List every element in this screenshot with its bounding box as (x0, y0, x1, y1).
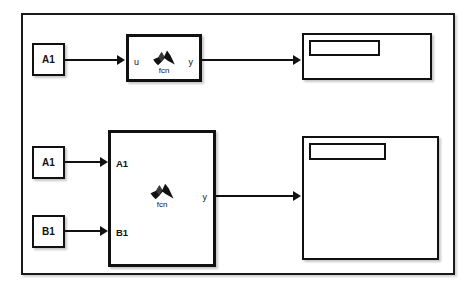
matlab-function-block-bottom[interactable]: A1 B1 y fcn (108, 130, 216, 267)
signal-line-fcn-to-display-bottom[interactable] (216, 195, 294, 197)
signal-line-a1-to-fcn-top[interactable] (65, 59, 118, 61)
signal-arrow-fcn-bottom-input-a1 (100, 157, 108, 167)
display-block-top[interactable] (302, 33, 432, 80)
const-a1-top-label: A1 (42, 55, 55, 65)
signal-line-fcn-to-display-top[interactable] (202, 59, 294, 61)
signal-line-b1-to-fcn-bottom[interactable] (65, 230, 101, 232)
matlab-membrane-icon (152, 50, 176, 66)
matlab-membrane-icon-group-top: fcn (129, 50, 199, 75)
signal-arrow-fcn-bottom-input-b1 (100, 226, 108, 236)
signal-arrow-fcn-top-input (117, 55, 125, 65)
const-b1-bottom-label: B1 (42, 227, 55, 237)
matlab-function-block-top[interactable]: u y fcn (126, 34, 202, 82)
const-a1-bottom[interactable]: A1 (32, 146, 65, 179)
fcn-caption-top: fcn (159, 67, 170, 75)
display-block-bottom[interactable] (302, 136, 439, 260)
diagram-canvas: A1 u y fcn A1 (0, 0, 474, 287)
port-label-a1-bottom: A1 (116, 159, 128, 169)
signal-arrow-display-bottom-input (293, 191, 301, 201)
signal-arrow-display-top-input (293, 55, 301, 65)
fcn-caption-bottom: fcn (157, 201, 168, 209)
const-b1-bottom[interactable]: B1 (32, 215, 65, 248)
port-label-b1-bottom: B1 (116, 228, 128, 238)
display-top-readout (309, 40, 380, 56)
const-a1-bottom-label: A1 (42, 158, 55, 168)
display-bottom-readout (309, 143, 386, 160)
signal-line-a1-to-fcn-bottom[interactable] (65, 161, 101, 163)
const-a1-top[interactable]: A1 (32, 43, 65, 76)
matlab-membrane-icon (149, 183, 175, 200)
matlab-membrane-icon-group-bottom: fcn (111, 183, 213, 209)
model-frame: A1 u y fcn A1 (21, 13, 455, 275)
